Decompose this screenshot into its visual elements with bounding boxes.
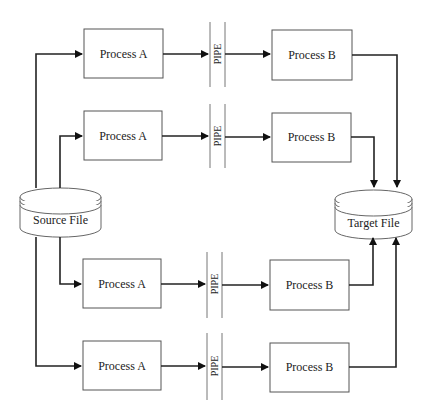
process-b-label: Process B: [288, 48, 336, 62]
process-a-label: Process A: [98, 277, 146, 291]
connector-source-row3: [60, 237, 81, 284]
process-b-label: Process B: [288, 130, 336, 144]
process-a-label: Process A: [100, 47, 148, 61]
pipe-label: PIPE: [212, 44, 223, 65]
connector-source-row2: [60, 136, 82, 188]
source-file-label: Source File: [33, 213, 88, 227]
pipeline-diagram: Source File Target File Process A PIPE P…: [0, 0, 433, 413]
process-b-label: Process B: [286, 278, 334, 292]
pipeline-row-3: Process A PIPE Process B: [83, 238, 373, 318]
target-file-label: Target File: [348, 216, 400, 230]
connector-source-row4: [36, 237, 81, 366]
process-b-label: Process B: [286, 360, 334, 374]
pipeline-row-2: Process A PIPE Process B: [84, 104, 374, 187]
target-file-cylinder: Target File: [335, 190, 412, 239]
pipe-label: PIPE: [209, 274, 220, 295]
connector-source-row1: [36, 54, 82, 188]
connector-b-to-target: [349, 238, 373, 285]
pipe-label: PIPE: [212, 126, 223, 147]
process-a-label: Process A: [98, 359, 146, 373]
process-a-label: Process A: [99, 129, 147, 143]
pipe-label: PIPE: [209, 356, 220, 377]
source-file-cylinder: Source File: [20, 188, 101, 237]
connector-b-to-target: [351, 137, 374, 187]
